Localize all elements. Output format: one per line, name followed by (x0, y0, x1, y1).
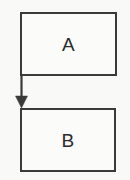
edge-a-to-b-arrowhead (16, 96, 28, 108)
diagram-node-a[interactable]: A (20, 12, 117, 76)
diagram-node-b[interactable]: B (20, 108, 116, 172)
diagram-canvas: A B (0, 0, 130, 180)
diagram-node-a-label: A (62, 35, 75, 54)
diagram-node-b-label: B (61, 131, 74, 150)
edge-a-to-b (16, 75, 28, 108)
